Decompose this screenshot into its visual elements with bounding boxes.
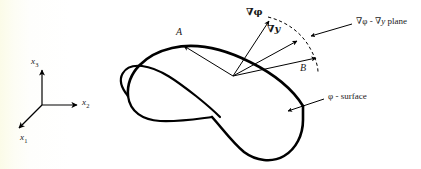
surface-left-loop — [121, 66, 220, 117]
axis-x1-line — [19, 105, 42, 128]
vector-label-A: A — [176, 27, 182, 37]
surface-upper-ridge — [128, 46, 303, 106]
coordinate-triad — [19, 70, 77, 128]
plane-annotation-leader — [311, 24, 352, 36]
vector-A-line — [184, 46, 233, 76]
surface-descending-flank — [212, 106, 303, 160]
surface-annotation-leader — [288, 99, 324, 111]
axis-label-x2: x2 — [82, 98, 89, 107]
vector-bundle — [184, 21, 316, 76]
vector-label-B: B — [300, 63, 306, 73]
vector-label-grad-y: ∇y — [267, 24, 280, 34]
axis-label-x3: x3 — [31, 57, 38, 66]
phi-surface-gradient-diagram: x3 x2 x1 A ∇φ ∇y B ∇φ - ∇y plane φ - sur… — [0, 0, 421, 169]
phi-surface-annotation: φ - surface — [328, 92, 367, 101]
vector-grad-phi-line — [233, 21, 269, 76]
vector-label-grad-phi: ∇φ — [246, 7, 263, 17]
axis-label-x1: x1 — [20, 133, 27, 142]
grad-phi-grad-y-plane-annotation: ∇φ - ∇y plane — [356, 17, 407, 26]
